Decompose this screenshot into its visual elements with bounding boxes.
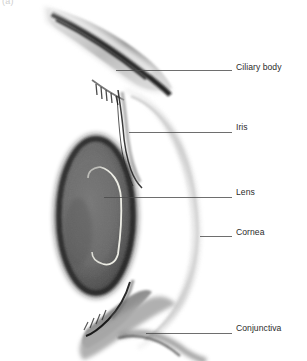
callout-label-ciliary-body: Ciliary body xyxy=(236,62,282,72)
ciliary-body-structure xyxy=(44,6,173,105)
callout-label-conjunctiva: Conjunctiva xyxy=(236,323,281,333)
lens-structure xyxy=(55,135,137,297)
callout-label-lens: Lens xyxy=(236,187,255,197)
eye-specimen-illustration xyxy=(0,0,307,361)
eye-cross-section-figure: (a) xyxy=(0,0,307,361)
callout-label-iris: Iris xyxy=(236,122,248,132)
callout-label-cornea: Cornea xyxy=(236,227,265,237)
